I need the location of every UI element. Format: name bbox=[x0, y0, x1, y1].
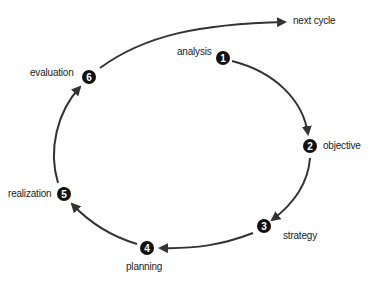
node-6-number: 6 bbox=[86, 72, 92, 83]
node-2: 2 bbox=[303, 139, 317, 153]
label-planning: planning bbox=[126, 261, 162, 272]
label-objective: objective bbox=[323, 140, 361, 151]
node-4: 4 bbox=[140, 241, 154, 255]
label-evaluation: evaluation bbox=[30, 67, 74, 78]
node-6: 6 bbox=[82, 70, 96, 84]
node-2-number: 2 bbox=[307, 141, 313, 152]
node-5: 5 bbox=[57, 187, 71, 201]
label-realization: realization bbox=[8, 188, 51, 199]
edge-1-2 bbox=[232, 61, 308, 134]
edge-4-5 bbox=[72, 204, 137, 244]
node-1: 1 bbox=[216, 51, 230, 65]
edge-3-4 bbox=[160, 233, 253, 248]
edge-5-6 bbox=[54, 87, 80, 183]
label-analysis: analysis bbox=[177, 46, 212, 57]
label-next-cycle: next cycle bbox=[293, 15, 335, 26]
edge-6-next-cycle bbox=[100, 22, 285, 68]
node-4-number: 4 bbox=[144, 243, 150, 254]
label-strategy: strategy bbox=[283, 230, 317, 241]
node-3-number: 3 bbox=[261, 221, 267, 232]
node-3: 3 bbox=[257, 219, 271, 233]
node-1-number: 1 bbox=[220, 53, 226, 64]
node-5-number: 5 bbox=[61, 189, 67, 200]
cycle-diagram: 1 2 3 4 5 6 analysis objective strategy … bbox=[0, 0, 371, 282]
edge-2-3 bbox=[272, 158, 310, 220]
